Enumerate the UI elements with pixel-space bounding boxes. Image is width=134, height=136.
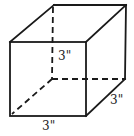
back-right-vertical-edge [125,5,126,79]
width-label: 3" [42,119,55,133]
hidden-vertical-edge [52,7,53,79]
hidden-left-bottom-edge [12,79,52,114]
top-left-edge [10,5,54,42]
depth-label: 3" [110,93,123,107]
cube-diagram: 3" 3" 3" [0,0,134,136]
top-right-edge [86,5,126,42]
height-label: 3" [58,49,71,63]
